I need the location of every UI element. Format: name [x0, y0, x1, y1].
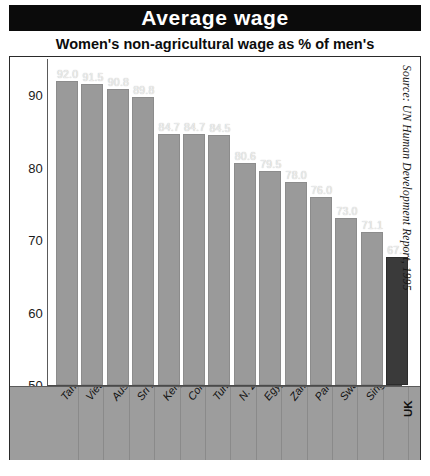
- x-axis-tick: [357, 387, 358, 460]
- x-axis-tick: [103, 387, 104, 460]
- bar-value-label: 84.7: [159, 121, 180, 133]
- x-axis-band: TanzaniaVietnamAustraliaSri LankaKenyaCo…: [10, 386, 420, 460]
- bar-value-label: 91.5: [82, 71, 103, 83]
- bar-value-label: 84.7: [184, 121, 205, 133]
- bar-value-label: 92.0: [57, 68, 78, 80]
- x-axis-tick: [180, 387, 181, 460]
- bar: [132, 97, 154, 385]
- bar: [208, 135, 230, 385]
- bar: [107, 89, 129, 385]
- bar: [285, 182, 307, 385]
- chart-poster: Average wage Women's non-agricultural wa…: [0, 0, 430, 476]
- bar-value-label: 79.5: [260, 158, 281, 170]
- title-banner: Average wage: [9, 5, 421, 31]
- y-axis-tick: 90: [28, 88, 43, 103]
- bar: [234, 163, 256, 385]
- bar: [335, 218, 357, 385]
- x-axis-label: UK: [402, 400, 414, 417]
- x-axis-tick: [256, 387, 257, 460]
- bar: [183, 134, 205, 385]
- plot-wrapper: 5060708090 92.091.590.889.884.784.784.58…: [10, 57, 420, 459]
- bar-value-label: 78.0: [286, 169, 307, 181]
- y-axis: 5060708090: [10, 57, 46, 387]
- x-axis-tick: [307, 387, 308, 460]
- bar: [81, 84, 103, 385]
- chart-subtitle: Women's non-agricultural wage as % of me…: [9, 33, 421, 55]
- chart-frame: 5060708090 92.091.590.889.884.784.784.58…: [9, 56, 421, 460]
- x-axis-tick: [78, 387, 79, 460]
- x-axis-tick: [129, 387, 130, 460]
- source-note: Source: UN Human Development Report, 199…: [402, 63, 420, 313]
- bar-value-label: 89.8: [133, 84, 154, 96]
- x-axis-tick: [205, 387, 206, 460]
- bars-area: 92.091.590.889.884.784.784.580.679.578.0…: [48, 59, 402, 385]
- bar: [158, 134, 180, 385]
- x-axis-tick: [383, 387, 384, 460]
- x-axis-tick: [230, 387, 231, 460]
- source-note-text: Source: UN Human Development Report, 199…: [401, 65, 413, 291]
- bar: [361, 232, 383, 385]
- bar: [310, 197, 332, 385]
- bar-value-label: 90.8: [108, 76, 129, 88]
- bar: [56, 81, 78, 385]
- bar: [259, 171, 281, 385]
- x-axis-tick: [154, 387, 155, 460]
- bar-value-label: 76.0: [311, 184, 332, 196]
- x-axis-tick: [281, 387, 282, 460]
- x-axis-label: Egypt: [261, 386, 288, 402]
- y-axis-tick: 80: [28, 160, 43, 175]
- x-axis-tick: [332, 387, 333, 460]
- x-axis-tick: [408, 387, 409, 460]
- bar-value-label: 84.5: [209, 122, 230, 134]
- y-axis-tick: 60: [28, 305, 43, 320]
- y-axis-tick: 70: [28, 233, 43, 248]
- bar-value-label: 80.6: [235, 150, 256, 162]
- page-title: Average wage: [141, 6, 289, 30]
- bar-value-label: 71.1: [362, 219, 383, 231]
- bar-value-label: 73.0: [336, 205, 357, 217]
